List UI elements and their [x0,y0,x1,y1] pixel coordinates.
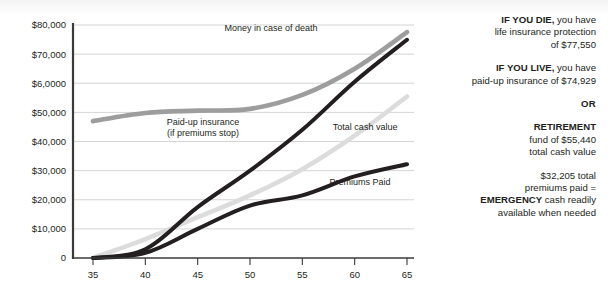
y-axis-tick-label: $80,000 [32,19,66,30]
x-axis-tick-label: 40 [140,269,151,280]
x-axis-tick-label: 55 [297,269,308,280]
if-you-live-block: IF YOU LIVE, you have paid-up insurance … [444,62,596,87]
series-annotation-label: Paid-up insurance [167,117,240,127]
x-axis-tick-label: 60 [349,269,360,280]
series-annotation-label: Premiums Paid [329,177,390,187]
y-axis-tick-label: $70,000 [32,49,66,60]
emergency-line4: available when needed [444,207,596,219]
series-annotation-label: (if premiums stop) [167,128,239,138]
series-annotation-label: Total cash value [333,122,398,132]
x-axis-tick-label: 50 [245,269,256,280]
x-axis-tick-labels: 35404550556065 [88,269,413,280]
retirement-line3: total cash value [444,146,596,158]
y-axis-tick-label: $50,000 [32,107,66,118]
series-annotation-label: Money in case of death [224,23,317,33]
if-you-die-line2: life insurance protection [444,26,596,38]
if-you-live-line2: paid-up insurance of $74,929 [444,75,596,87]
if-you-live-rest: you have [554,62,596,73]
if-you-live-line1: IF YOU LIVE, you have [444,62,596,74]
chart-panel: $80,000$70,000$6,0000$50,000$40,000$30,0… [0,0,440,289]
or-divider-label: OR [444,98,596,110]
x-axis-tick-label: 65 [402,269,413,280]
y-axis-tick-label: $6,0000 [32,78,66,89]
summary-text-panel: IF YOU DIE, you have life insurance prot… [440,0,608,289]
emergency-line1: $32,205 total [444,170,596,182]
retirement-line2: fund of $55,440 [444,134,596,146]
emergency-lead: EMERGENCY [480,194,542,205]
y-axis-tick-label: 0 [61,252,66,263]
line-chart: $80,000$70,000$6,0000$50,000$40,000$30,0… [0,0,440,289]
if-you-die-line3: of $77,550 [444,39,596,51]
if-you-die-block: IF YOU DIE, you have life insurance prot… [444,14,596,51]
emergency-block: $32,205 total premiums paid = EMERGENCY … [444,170,596,220]
if-you-die-rest: you have [554,14,596,25]
x-axis-tick-label: 35 [88,269,99,280]
if-you-live-lead: IF YOU LIVE, [496,62,554,73]
emergency-line3: EMERGENCY cash readily [444,194,596,206]
if-you-die-lead: IF YOU DIE, [501,14,554,25]
y-axis-tick-label: $10,000 [32,223,66,234]
retirement-block: RETIREMENT fund of $55,440 total cash va… [444,121,596,158]
series-lines [93,32,407,258]
series-line [93,40,407,258]
y-axis-tick-labels: $80,000$70,000$6,0000$50,000$40,000$30,0… [32,19,66,263]
emergency-rest: cash readily [542,194,596,205]
emergency-line2: premiums paid = [444,182,596,194]
x-axis-tick-label: 45 [192,269,203,280]
series-annotations: Money in case of deathPaid-up insurance(… [167,23,398,187]
y-axis-tick-label: $30,000 [32,165,66,176]
y-axis-tick-label: $20,000 [32,194,66,205]
retirement-heading: RETIREMENT [444,121,596,133]
x-axis-ticks [93,258,407,265]
y-axis-tick-label: $40,000 [32,136,66,147]
chart-page: $80,000$70,000$6,0000$50,000$40,000$30,0… [0,0,608,289]
if-you-die-line1: IF YOU DIE, you have [444,14,596,26]
